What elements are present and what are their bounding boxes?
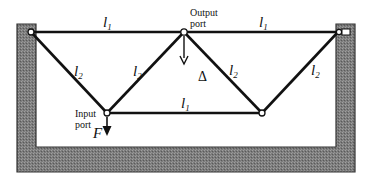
- label-bottom-member: l1: [181, 95, 190, 113]
- roller-right-support: [336, 29, 350, 35]
- output-displacement-arrow-icon: [180, 36, 188, 64]
- member-diag-4: [262, 32, 338, 113]
- member-diag-2: [107, 32, 184, 113]
- label-input-force: F: [92, 125, 103, 141]
- member-diag-3: [184, 32, 262, 113]
- label-diag-3: l2: [229, 62, 238, 80]
- output-port-node: [181, 29, 187, 35]
- label-diag-4: l2: [311, 62, 320, 80]
- member-diag-1: [31, 32, 107, 113]
- input-force-arrow-icon: [103, 117, 112, 136]
- label-top-left-member: l1: [103, 14, 112, 32]
- bottom-right-node: [259, 110, 265, 116]
- pin-left-support: [28, 29, 34, 35]
- input-port-label-line1: Input: [75, 108, 96, 119]
- input-port-node: [104, 110, 110, 116]
- output-port-label-line1: Output: [190, 7, 218, 18]
- label-top-right-member: l1: [259, 14, 268, 32]
- label-diag-1: l2: [74, 63, 83, 81]
- input-port-label-line2: port: [75, 119, 91, 130]
- output-port-label-line2: port: [190, 18, 206, 29]
- label-output-displacement: Δ: [198, 69, 207, 84]
- truss-diagram: l1 l1 l1 l2 l2 l2 l2 Δ F Output port Inp…: [0, 0, 373, 183]
- label-diag-2: l2: [133, 63, 142, 81]
- ground-frame: [17, 24, 355, 172]
